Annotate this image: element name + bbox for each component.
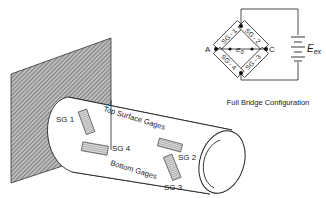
label-sg4: SG 4 <box>112 144 131 153</box>
output-terminal-left <box>228 47 231 50</box>
node-c <box>264 47 268 51</box>
label-node-c: C <box>269 45 275 54</box>
label-excitation-voltage: Eex <box>307 43 322 55</box>
figure-title: Full Bridge Configuration <box>227 98 310 107</box>
label-node-a: A <box>205 45 211 54</box>
node-top <box>239 24 243 28</box>
battery-symbol <box>291 37 305 61</box>
label-sg3: SG 3 <box>164 183 183 192</box>
label-sg1: SG 1 <box>56 115 75 124</box>
wheatstone-bridge: SG - 1 SG - 2 SG - 3 SG - 4 <box>213 9 305 80</box>
strain-gage-diagram: SG 1 SG 4 SG 2 SG 3 Top Surface Gages Bo… <box>0 0 326 198</box>
output-terminal-right <box>250 47 253 50</box>
label-output-voltage: e0 <box>236 45 244 55</box>
node-a <box>214 47 218 51</box>
label-sg2: SG 2 <box>178 153 197 162</box>
node-bottom <box>239 71 243 75</box>
